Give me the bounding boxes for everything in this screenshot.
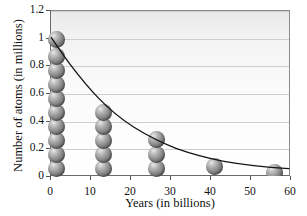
y-tick-label-0-8: 0.8 <box>30 59 44 71</box>
y-axis-title: Number of atoms (in millions) <box>11 8 26 184</box>
x-tick-mark-40 <box>210 176 211 180</box>
plot-area <box>50 10 290 176</box>
y-tick-mark-1-2 <box>46 10 50 11</box>
x-tick-mark-50 <box>250 176 251 180</box>
gridline-1-0 <box>51 39 289 40</box>
y-tick-label-0-2: 0.2 <box>30 142 44 154</box>
y-tick-label-1-0: 1 <box>38 32 44 44</box>
y-tick-label-0-6: 0.6 <box>30 87 44 99</box>
y-tick-label-0-4: 0.4 <box>30 115 44 127</box>
gridline-0-4 <box>51 122 289 123</box>
atom-sphere <box>148 146 165 163</box>
atom-sphere <box>266 164 283 181</box>
y-tick-label-1-2: 1.2 <box>30 4 44 16</box>
x-tick-mark-20 <box>130 176 131 180</box>
x-tick-mark-10 <box>90 176 91 180</box>
gridline-1-2 <box>51 11 289 12</box>
x-tick-mark-30 <box>170 176 171 180</box>
gridline-0-2 <box>51 149 289 150</box>
gridline-0-8 <box>51 66 289 67</box>
atom-sphere <box>95 104 112 121</box>
decay-chart-figure: 1.2 1 0.8 0.6 0.4 0.2 0 0 10 20 30 40 50 <box>0 0 307 216</box>
x-tick-mark-60 <box>290 176 291 180</box>
atom-sphere <box>148 131 165 148</box>
x-tick-mark-0 <box>50 176 51 180</box>
x-axis-title: Years (in billions) <box>50 196 290 211</box>
gridline-0-6 <box>51 94 289 95</box>
atom-sphere <box>48 48 65 65</box>
atom-sphere <box>206 158 223 175</box>
atom-sphere <box>48 31 65 48</box>
y-tick-label-0: 0 <box>38 170 44 182</box>
